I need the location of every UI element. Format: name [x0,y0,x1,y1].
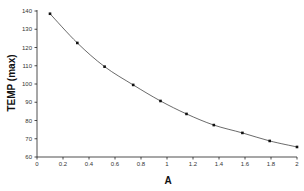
y-tick-label: 110 [22,63,32,69]
x-axis-ticks: 00.20.40.60.811.21.41.61.82 [35,157,299,167]
x-tick-label: 0 [35,161,39,167]
data-point-marker [296,146,299,149]
data-point-marker [103,65,106,68]
x-tick-label: 0.8 [137,161,146,167]
x-tick-label: 0.2 [59,161,68,167]
data-point-marker [132,84,135,87]
data-point-marker [76,42,79,45]
data-point-marker [268,140,271,143]
y-axis-title: TEMP (max) [6,54,17,111]
y-tick-label: 140 [22,8,33,14]
y-tick-label: 70 [25,136,32,142]
data-point-marker [49,12,52,15]
y-axis-ticks: 60708090100110120130140 [22,8,37,160]
data-point-marker [159,100,162,103]
x-tick-label: 0.6 [111,161,120,167]
y-tick-label: 60 [25,154,32,160]
data-point-marker [185,113,188,116]
x-axis-title: A [164,175,171,186]
y-tick-label: 90 [25,99,32,105]
plot-area [49,12,299,148]
line-chart: 60708090100110120130140 00.20.40.60.811.… [0,0,304,191]
y-tick-label: 100 [22,81,33,87]
x-tick-label: 1 [165,161,169,167]
data-point-marker [213,124,216,127]
x-tick-label: 2 [295,161,299,167]
y-tick-label: 120 [22,45,33,51]
y-axis: 60708090100110120130140 [22,8,37,160]
series-line [50,14,297,147]
x-tick-label: 0.4 [85,161,94,167]
x-tick-label: 1.2 [189,161,198,167]
x-tick-label: 1.8 [267,161,276,167]
x-tick-label: 1.6 [241,161,250,167]
y-tick-label: 130 [22,26,33,32]
y-tick-label: 80 [25,118,32,124]
data-markers [49,12,299,148]
x-axis: 00.20.40.60.811.21.41.61.82 [35,157,299,167]
data-point-marker [241,132,244,135]
x-tick-label: 1.4 [215,161,224,167]
